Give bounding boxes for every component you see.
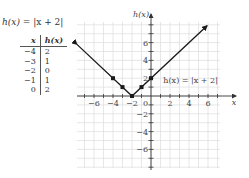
x-axis-label: x [232, 98, 237, 107]
y-tick-label: −2 [136, 110, 148, 119]
x-tick-label: 6 [205, 99, 210, 108]
data-point [121, 85, 125, 89]
data-point [130, 94, 134, 98]
y-axis-label: h(x) [133, 10, 149, 19]
x-tick-label: 4 [186, 99, 191, 108]
y-tick-label: 4 [143, 56, 148, 65]
y-tick-label: −4 [136, 128, 148, 137]
data-point [140, 85, 144, 89]
annotations: h(x) = |x + 2| [163, 76, 217, 85]
x-tick-label: −2 [126, 99, 138, 108]
x-tick-label: 2 [167, 99, 172, 108]
x-tick-label: −4 [107, 99, 119, 108]
x-tick-label: −6 [88, 99, 100, 108]
y-tick-label: −6 [136, 145, 148, 154]
axes [77, 14, 236, 170]
graph-annotation: h(x) = |x + 2| [163, 76, 217, 85]
data-point [149, 76, 153, 80]
graph: −6−4−2246−6−4−22460xh(x) h(x) = |x + 2| [0, 0, 249, 178]
data-point [111, 76, 115, 80]
y-tick-label: 6 [143, 39, 148, 48]
origin-label: 0 [143, 99, 148, 108]
